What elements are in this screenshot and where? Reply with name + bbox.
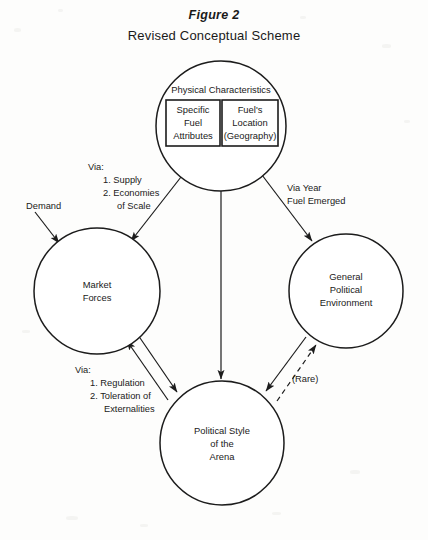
node-political-style-line-3: Arena (209, 451, 235, 462)
edge-label-via-regulation-line-3: 2. Toleration of (90, 391, 151, 401)
box-fuels-location-line-2: Location (232, 117, 267, 128)
node-political-style-line-1: Political Style (194, 425, 250, 436)
edge-label-via-year-line-1: Via Year (287, 183, 321, 193)
node-general-political-environment-line-2: Political (330, 284, 362, 295)
edge-label-rare: (Rare) (292, 374, 318, 384)
node-market-forces-line-2: Forces (83, 292, 112, 303)
box-specific-fuel-attributes-line-3: Attributes (173, 130, 213, 141)
box-specific-fuel-attributes-line-1: Specific (177, 104, 210, 115)
node-market-forces-line-1: Market (83, 279, 112, 290)
edge-label-via-supply-line-4: of Scale (117, 201, 151, 211)
edge-demand-to-market-forces (35, 212, 59, 243)
node-market-forces (34, 228, 160, 354)
edge-label-via-supply-line-1: Via: (88, 162, 104, 172)
node-general-political-environment-line-1: General (329, 271, 362, 282)
edge-label-via-year-line-2: Fuel Emerged (287, 196, 345, 206)
node-general-political-environment-line-3: Environment (320, 297, 373, 308)
box-fuels-location-line-3: (Geography) (224, 130, 277, 141)
edge-label-demand: Demand (26, 201, 61, 211)
conceptual-scheme-diagram: Physical Characteristics Specific Fuel A… (0, 0, 428, 540)
edge-label-via-supply-line-3: 2. Economies (103, 188, 160, 198)
edge-label-via-regulation-line-4: Externalities (104, 404, 155, 414)
edge-label-via-regulation-line-1: Via: (75, 365, 91, 375)
edge-label-via-regulation-line-2: 1. Regulation (90, 378, 145, 388)
figure-container: Figure 2 Revised Conceptual Scheme Physi… (0, 0, 428, 540)
node-political-style-line-2: of the (210, 438, 233, 449)
edge-political-style-to-environment-rare (277, 345, 316, 401)
box-specific-fuel-attributes-line-2: Fuel (184, 117, 202, 128)
node-physical-characteristics-heading: Physical Characteristics (171, 84, 271, 95)
box-fuels-location-line-1: Fuel's (238, 104, 263, 115)
edge-label-via-supply-line-2: 1. Supply (103, 175, 142, 185)
